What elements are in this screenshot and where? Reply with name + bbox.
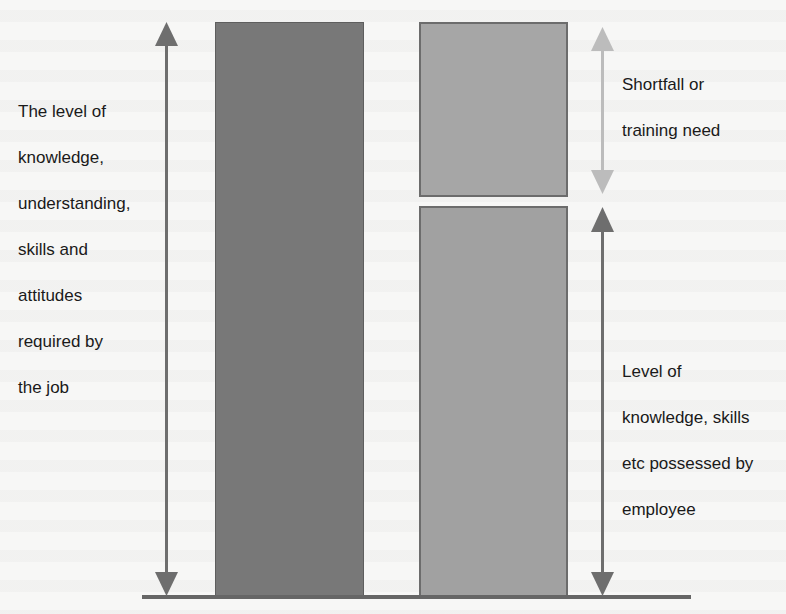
label-line: skills and <box>18 238 158 261</box>
label-line: Shortfall or <box>622 73 782 96</box>
label-line: understanding, <box>18 192 158 215</box>
label-line: Level of <box>622 360 786 383</box>
label-line: employee <box>622 498 786 521</box>
label-line: required by <box>18 330 158 353</box>
label-line: the job <box>18 376 158 399</box>
required-double-arrow-icon <box>155 22 178 596</box>
training-gap-diagram: The level of knowledge, understanding, s… <box>0 0 786 614</box>
shortfall-label: Shortfall or training need <box>622 50 782 165</box>
label-line: knowledge, <box>18 146 158 169</box>
label-line: knowledge, skills <box>622 406 786 429</box>
label-line: attitudes <box>18 284 158 307</box>
label-line: training need <box>622 119 782 142</box>
label-line: The level of <box>18 100 158 123</box>
shortfall-double-arrow-icon <box>591 27 614 194</box>
possessed-level-label: Level of knowledge, skills etc possessed… <box>622 337 786 544</box>
label-line: etc possessed by <box>622 452 786 475</box>
required-level-label: The level of knowledge, understanding, s… <box>18 77 158 422</box>
possessed-double-arrow-icon <box>591 207 614 596</box>
